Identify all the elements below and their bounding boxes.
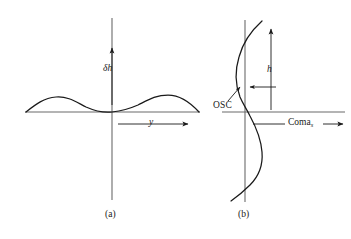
panel-b-coma-label-text: Coma <box>288 117 311 127</box>
figure-container: δh y (a) h OSC Comas (b) <box>0 0 351 239</box>
panel-b-osc-curve <box>231 21 262 201</box>
panel-b-osc-leader-arrow <box>228 87 240 101</box>
panel-b-caption: (b) <box>238 210 249 220</box>
panel-b-coma-label: Comas <box>288 118 313 128</box>
panel-a-caption: (a) <box>105 210 116 220</box>
panel-a-graphics <box>25 18 200 200</box>
panel-b-h-label: h <box>267 65 272 75</box>
panel-b-graphics <box>222 20 345 202</box>
panel-b-osc-label: OSC <box>213 101 232 111</box>
panel-a-delta-h-label: δh <box>103 64 112 74</box>
panel-a-y-axis-label: y <box>149 118 153 128</box>
panel-b-coma-label-subscript: s <box>311 121 314 128</box>
